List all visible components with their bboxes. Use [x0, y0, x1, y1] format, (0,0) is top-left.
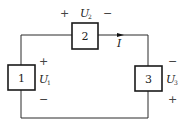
element-2-polarity-left: +	[60, 7, 69, 20]
element-3-polarity-bottom: +	[168, 93, 177, 106]
element-2-polarity-right: −	[103, 7, 112, 20]
element-1-polarity-top: +	[39, 55, 48, 68]
element-2: 2 + U 2 −	[60, 7, 112, 49]
element-2-label: 2	[82, 30, 89, 43]
element-1-voltage-subscript: 1	[47, 79, 51, 86]
current-label: I	[116, 37, 122, 50]
current-indicator: I	[116, 33, 124, 50]
element-3: 3 − U 3 +	[135, 55, 178, 106]
element-3-voltage-subscript: 3	[174, 79, 178, 86]
element-1-polarity-bottom: −	[39, 93, 48, 106]
element-1: 1 + U 1 −	[8, 55, 51, 106]
circuit-diagram: 1 + U 1 − 2 + U 2 − 3 − U 3 + I	[0, 0, 181, 130]
element-3-polarity-top: −	[168, 55, 177, 68]
wire-top-right	[98, 35, 148, 66]
element-1-label: 1	[18, 72, 25, 85]
element-2-voltage-subscript: 2	[88, 13, 92, 20]
element-3-label: 3	[145, 73, 152, 86]
